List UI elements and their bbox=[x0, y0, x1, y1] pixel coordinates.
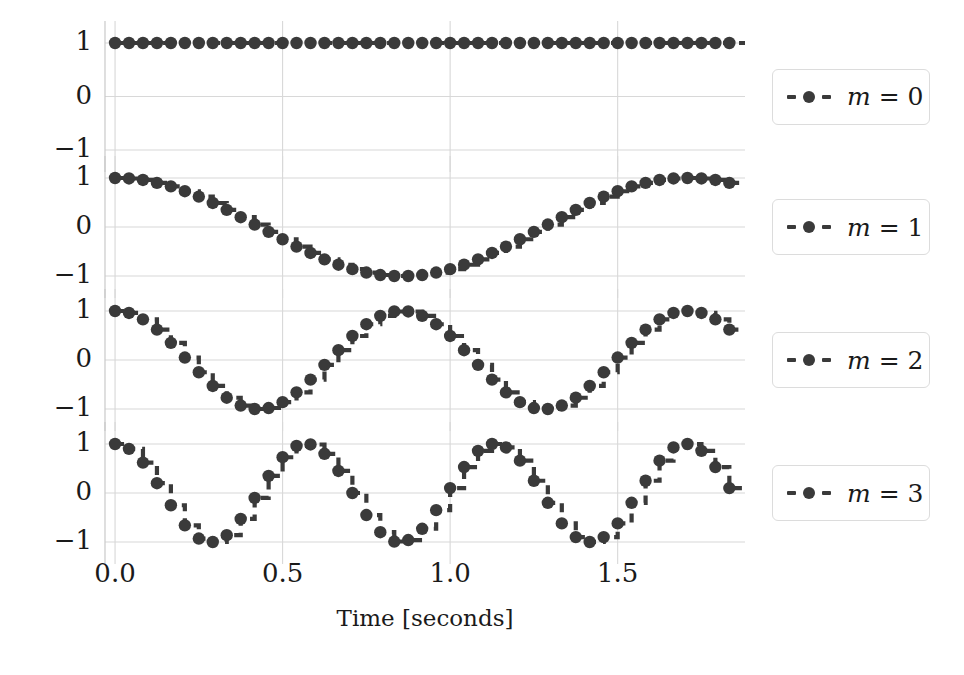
data-point bbox=[570, 204, 582, 216]
legend-label: m = 3 bbox=[847, 479, 923, 508]
legend-marker-icon bbox=[787, 90, 831, 104]
data-point bbox=[709, 461, 721, 473]
legend-entry-1[interactable]: m = 1 bbox=[772, 199, 930, 255]
data-point bbox=[123, 443, 135, 455]
data-point bbox=[304, 37, 316, 49]
data-point bbox=[611, 351, 623, 363]
data-point bbox=[402, 534, 414, 546]
legend-entry-3[interactable]: m = 3 bbox=[772, 465, 930, 521]
data-point bbox=[653, 37, 665, 49]
y-tick-label: −1 bbox=[22, 394, 92, 420]
y-tick-label: 0 bbox=[22, 478, 92, 504]
data-point bbox=[416, 310, 428, 322]
data-point bbox=[388, 535, 400, 547]
data-point bbox=[416, 523, 428, 535]
data-point bbox=[653, 313, 665, 325]
data-point bbox=[528, 402, 540, 414]
data-point bbox=[221, 529, 233, 541]
data-point bbox=[374, 526, 386, 538]
data-point bbox=[444, 482, 456, 494]
data-point bbox=[304, 373, 316, 385]
data-point bbox=[528, 475, 540, 487]
data-point bbox=[221, 392, 233, 404]
legend-label: m = 0 bbox=[847, 82, 923, 111]
data-point bbox=[374, 269, 386, 281]
data-point bbox=[723, 323, 735, 335]
data-point bbox=[695, 307, 707, 319]
data-point bbox=[709, 313, 721, 325]
data-point bbox=[486, 247, 498, 259]
data-point bbox=[570, 531, 582, 543]
data-point bbox=[318, 37, 330, 49]
data-point bbox=[598, 366, 610, 378]
data-point bbox=[235, 399, 247, 411]
data-point bbox=[695, 37, 707, 49]
data-point bbox=[486, 438, 498, 450]
data-point bbox=[458, 259, 470, 271]
data-point bbox=[681, 438, 693, 450]
data-point bbox=[625, 497, 637, 509]
data-point bbox=[667, 172, 679, 184]
data-point bbox=[667, 307, 679, 319]
data-point bbox=[346, 330, 358, 342]
data-point bbox=[276, 233, 288, 245]
data-point bbox=[611, 185, 623, 197]
data-point bbox=[290, 37, 302, 49]
data-point bbox=[332, 344, 344, 356]
data-point bbox=[151, 37, 163, 49]
data-point bbox=[639, 37, 651, 49]
data-point bbox=[304, 247, 316, 259]
data-point bbox=[123, 37, 135, 49]
data-point bbox=[262, 37, 274, 49]
data-point bbox=[360, 37, 372, 49]
data-point bbox=[276, 451, 288, 463]
data-point bbox=[500, 441, 512, 453]
data-point bbox=[639, 475, 651, 487]
data-point bbox=[165, 37, 177, 49]
data-point bbox=[193, 532, 205, 544]
data-point bbox=[486, 373, 498, 385]
data-point bbox=[262, 402, 274, 414]
data-point bbox=[416, 37, 428, 49]
data-point bbox=[151, 177, 163, 189]
data-point bbox=[472, 445, 484, 457]
data-point bbox=[416, 269, 428, 281]
legend-entry-0[interactable]: m = 0 bbox=[772, 69, 930, 125]
data-point bbox=[444, 37, 456, 49]
data-point bbox=[165, 337, 177, 349]
y-tick-label: −1 bbox=[22, 527, 92, 553]
data-point bbox=[109, 305, 121, 317]
data-point bbox=[695, 172, 707, 184]
data-point bbox=[542, 497, 554, 509]
data-point bbox=[556, 211, 568, 223]
data-point bbox=[137, 174, 149, 186]
data-point bbox=[500, 240, 512, 252]
data-point bbox=[667, 37, 679, 49]
y-tick-label: −1 bbox=[22, 261, 92, 287]
data-point bbox=[360, 318, 372, 330]
legend-entry-2[interactable]: m = 2 bbox=[772, 332, 930, 388]
data-point bbox=[639, 323, 651, 335]
data-point bbox=[109, 37, 121, 49]
data-point bbox=[151, 323, 163, 335]
data-point bbox=[458, 344, 470, 356]
data-point bbox=[556, 517, 568, 529]
data-point bbox=[318, 359, 330, 371]
y-tick-label: 1 bbox=[22, 296, 92, 322]
data-point bbox=[514, 454, 526, 466]
data-point bbox=[290, 440, 302, 452]
y-tick-label: 1 bbox=[22, 429, 92, 455]
data-point bbox=[444, 263, 456, 275]
data-point bbox=[360, 266, 372, 278]
data-point bbox=[137, 313, 149, 325]
data-point bbox=[472, 359, 484, 371]
data-point bbox=[262, 226, 274, 238]
data-point bbox=[165, 499, 177, 511]
data-point bbox=[458, 37, 470, 49]
data-point bbox=[444, 330, 456, 342]
data-point bbox=[584, 197, 596, 209]
data-layer bbox=[109, 37, 745, 548]
legend-marker-icon bbox=[787, 220, 831, 234]
data-point bbox=[248, 218, 260, 230]
data-point bbox=[221, 204, 233, 216]
